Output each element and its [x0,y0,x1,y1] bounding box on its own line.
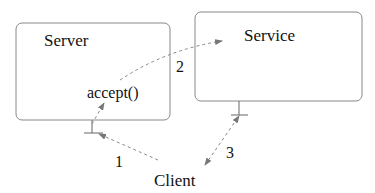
edge-3: 3 [205,116,239,165]
edge-2-label: 2 [176,58,184,75]
edge-1-label: 1 [115,153,123,170]
edge-2: 2 [120,41,222,80]
service-label: Service [244,26,295,45]
edge-1: 1 [99,134,158,170]
server-node: Server accept() [16,23,170,133]
edge-2-arrow [120,41,222,80]
edge-1-arrow [99,134,158,160]
service-node: Service [195,12,362,115]
server-label: Server [44,31,89,50]
client-label: Client [154,171,196,190]
accept-link-arrow [92,103,104,124]
diagram-canvas: Server accept() Service Client 1 2 3 [0,0,375,193]
accept-method-label: accept() [87,84,139,102]
server-box [16,23,170,120]
edge-3-label: 3 [226,144,234,161]
